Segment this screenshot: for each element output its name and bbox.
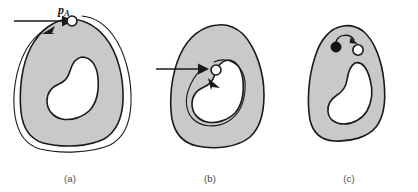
start-point-pa-label: pA (58, 4, 70, 18)
figure-root: pA (a) pB (b) (0, 0, 418, 192)
gray-region (308, 26, 384, 141)
panel-c: (c) (280, 0, 418, 192)
filled-point-marker (331, 42, 341, 52)
panel-b: pB (b) (140, 0, 280, 192)
panel-a-graphic (0, 0, 140, 192)
gray-region (20, 19, 123, 146)
panel-a: pA (a) (0, 0, 140, 192)
panel-b-caption: (b) (140, 173, 280, 184)
trace-direction-arrow (208, 78, 220, 90)
open-point-marker (353, 45, 363, 55)
panel-c-graphic (280, 0, 418, 192)
panel-c-caption: (c) (280, 173, 418, 184)
start-point-pb-marker (211, 65, 221, 75)
panel-a-caption: (a) (0, 173, 140, 184)
point-label-subscript: A (64, 9, 70, 18)
panel-b-graphic (140, 0, 280, 192)
